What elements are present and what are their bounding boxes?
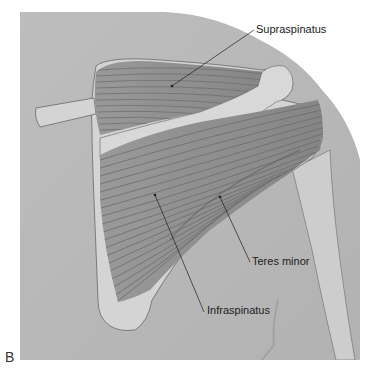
shoulder-anatomy-figure: Supraspinatus Teres minor Infraspinatus …: [0, 0, 370, 373]
label-infraspinatus: Infraspinatus: [207, 305, 270, 316]
label-teres-minor: Teres minor: [252, 256, 309, 267]
shoulder-illustration: [0, 0, 370, 373]
panel-letter: B: [5, 350, 14, 364]
label-supraspinatus: Supraspinatus: [256, 24, 326, 35]
